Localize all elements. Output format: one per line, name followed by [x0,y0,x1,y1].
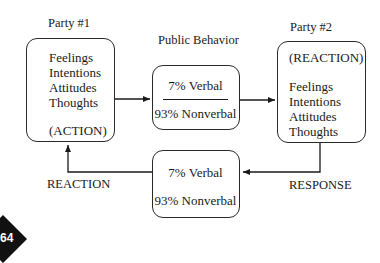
party1-tag-action: (ACTION) [49,123,107,138]
public-behavior-title: Public Behavior [158,33,239,48]
page-number: 64 [0,231,13,245]
party1-box: Feelings Intentions Attitudes Thoughts (… [26,38,115,142]
party1-title: Party #1 [48,16,90,31]
return-behavior-box: 7% Verbal 93% Nonverbal [152,150,240,218]
public-behavior-box: 7% Verbal 93% Nonverbal [152,65,240,130]
party2-line-feelings: Feelings [289,79,333,94]
arrow-response [243,143,320,172]
reaction-label: REACTION [47,177,110,192]
party1-line-intentions: Intentions [49,65,101,80]
public-nonverbal-text: 93% Nonverbal [153,106,238,121]
party2-box: (REACTION) Feelings Intentions Attitudes… [277,41,366,143]
party1-line-attitudes: Attitudes [49,80,97,95]
party1-line-thoughts: Thoughts [49,95,98,110]
party2-line-attitudes: Attitudes [289,109,337,124]
party2-tag-reaction: (REACTION) [289,50,363,65]
public-divider [163,99,228,100]
return-nonverbal-text: 93% Nonverbal [153,193,238,208]
public-verbal-text: 7% Verbal [153,78,238,93]
party2-line-thoughts: Thoughts [289,124,338,139]
party2-line-intentions: Intentions [289,94,341,109]
party1-line-feelings: Feelings [49,50,93,65]
return-verbal-text: 7% Verbal [153,165,238,180]
party2-title: Party #2 [290,20,332,35]
arrow-reaction [68,145,152,172]
response-label: RESPONSE [289,178,352,193]
